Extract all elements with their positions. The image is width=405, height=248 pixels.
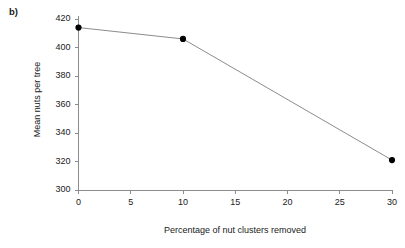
x-tick-label: 0 <box>64 198 94 207</box>
data-points <box>75 24 395 163</box>
y-tick-label: 300 <box>41 185 71 194</box>
y-tick-label: 420 <box>41 14 71 23</box>
figure-panel-b: b) Mean nuts per tree Percentage of nut … <box>0 0 405 248</box>
axes <box>79 16 393 190</box>
x-tick-label: 10 <box>168 198 198 207</box>
y-tick-label: 320 <box>41 157 71 166</box>
x-tick-label: 25 <box>325 198 355 207</box>
data-point-marker <box>75 24 81 30</box>
y-tick-label: 380 <box>41 71 71 80</box>
data-series <box>79 28 393 161</box>
data-point-marker <box>180 36 186 42</box>
x-tick-label: 30 <box>377 198 405 207</box>
x-tick-label: 15 <box>220 198 250 207</box>
x-tick-label: 20 <box>273 198 303 207</box>
x-tick-label: 5 <box>116 198 146 207</box>
y-tick-label: 340 <box>41 128 71 137</box>
data-point-marker <box>389 157 395 163</box>
series-line <box>79 28 393 161</box>
y-tick-label: 400 <box>41 43 71 52</box>
tick-marks <box>75 19 392 194</box>
y-tick-label: 360 <box>41 100 71 109</box>
line-chart-plot <box>0 0 405 248</box>
